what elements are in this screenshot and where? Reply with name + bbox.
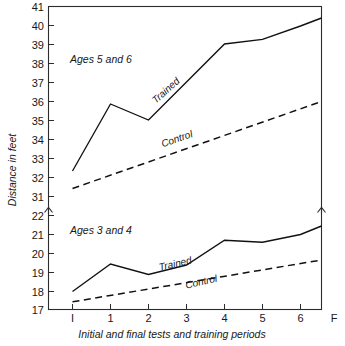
lower-trained-label: Trained [158,254,193,272]
upper-control-label: Control [160,128,195,149]
y-tick-label: 38 [32,58,44,70]
y-tick-label: 20 [32,248,44,260]
y-axis-lower-labels: 22 21 20 19 18 17 [32,210,44,316]
chart-svg: 41 40 39 38 37 36 35 34 33 32 31 [0,0,345,346]
x-tick-label: I [71,312,74,324]
lower-control-label: Control [184,272,219,290]
x-tick-label: 3 [183,312,189,324]
y-tick-label: 18 [32,286,44,298]
group-label-upper: Ages 5 and 6 [69,53,132,65]
y-tick-label: 37 [32,77,44,89]
y-axis-lower-ticks [49,216,55,310]
upper-control-line [73,102,322,189]
y-axis-title: Distance in feet [6,133,18,206]
y-axis-break-left-icon [45,208,53,215]
group-label-lower: Ages 3 and 4 [69,224,132,236]
x-tick-label: 2 [145,312,151,324]
y-tick-label: 35 [32,115,44,127]
y-axis-upper-labels: 41 40 39 38 37 36 35 34 33 32 31 [32,1,44,203]
x-tick-label: 5 [259,312,265,324]
x-tick-label: 4 [221,312,227,324]
y-tick-label: 32 [32,172,44,184]
y-axis-upper-ticks [49,7,55,197]
y-tick-label: 17 [32,304,44,316]
chart-figure: 41 40 39 38 37 36 35 34 33 32 31 [0,0,345,346]
y-tick-label: 19 [32,267,44,279]
x-axis-title: Initial and final tests and training per… [78,328,266,340]
y-tick-label: 41 [32,1,44,13]
y-axis-break-right-icon [318,208,326,215]
x-tick-label: 6 [297,312,303,324]
x-tick-label: 1 [107,312,113,324]
x-axis-labels: I 1 2 3 4 5 6 F [71,312,338,324]
y-tick-label: 22 [32,210,44,222]
y-tick-label: 36 [32,96,44,108]
y-tick-label: 40 [32,20,44,32]
upper-trained-line [73,18,322,171]
y-tick-label: 31 [32,191,44,203]
upper-trained-label: Trained [150,75,182,106]
y-tick-label: 33 [32,153,44,165]
y-tick-label: 34 [32,134,44,146]
y-tick-label: 39 [32,39,44,51]
x-axis-ticks [73,304,322,310]
x-tick-label: F [331,312,338,324]
y-tick-label: 21 [32,229,44,241]
